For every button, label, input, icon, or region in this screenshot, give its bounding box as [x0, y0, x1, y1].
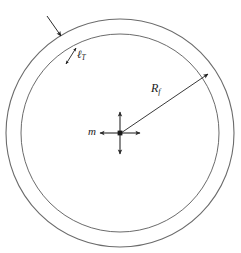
- thickness-label-subscript: T: [82, 53, 86, 62]
- shell-pointer-arrow: [47, 16, 61, 36]
- mass-label: m: [88, 126, 96, 137]
- thickness-dimension-arrow: [66, 48, 76, 64]
- center-mass-dot: [118, 131, 123, 136]
- thickness-label: ℓT: [77, 49, 86, 61]
- radius-label: Rf: [151, 82, 161, 96]
- mass-label-symbol: m: [88, 125, 96, 137]
- radius-label-subscript: f: [158, 87, 160, 96]
- shell-diagram-svg: [0, 0, 241, 253]
- figure-canvas: ℓT Rf m: [0, 0, 241, 253]
- radius-arrow: [121, 74, 208, 133]
